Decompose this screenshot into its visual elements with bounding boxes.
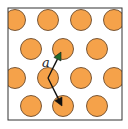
atom: [21, 39, 42, 60]
atom: [87, 39, 108, 60]
atom: [53, 96, 74, 117]
lattice-diagram: a: [0, 0, 128, 129]
atom: [87, 96, 108, 117]
atom: [104, 68, 125, 89]
atom: [71, 10, 92, 31]
atom: [104, 10, 125, 31]
atom: [21, 96, 42, 117]
lattice-constant-label: a: [42, 55, 50, 70]
lattice-svg: a: [0, 0, 128, 129]
atom: [71, 68, 92, 89]
atoms-group: [5, 10, 125, 117]
atom: [38, 10, 59, 31]
